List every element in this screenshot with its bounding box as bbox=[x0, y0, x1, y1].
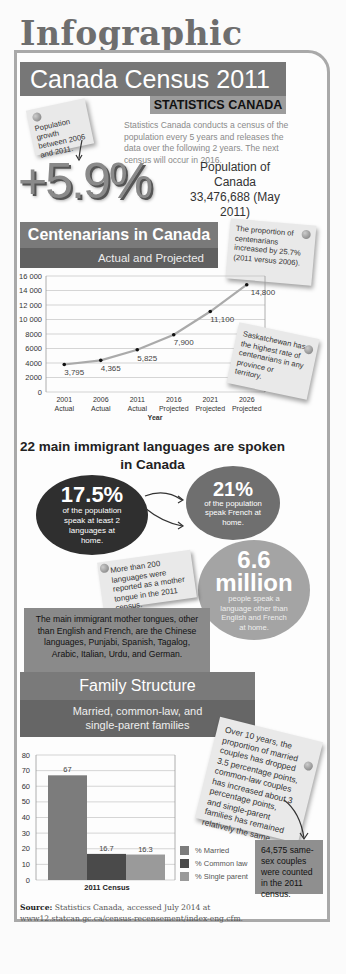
source-label: Source: bbox=[20, 903, 52, 912]
same-sex-couples-box: 64,575 same-sex couples were counted in … bbox=[255, 840, 323, 894]
bilingual-text: of the population speak at least 2 langu… bbox=[60, 506, 124, 546]
circle-other-language: 6.6 million people speak a language othe… bbox=[198, 540, 310, 640]
svg-text:20: 20 bbox=[22, 844, 30, 853]
svg-text:2011: 2011 bbox=[130, 396, 145, 403]
other-language-value-1: 6.6 bbox=[237, 548, 270, 571]
growth-value: +5.9% bbox=[18, 152, 151, 210]
pin-icon bbox=[303, 761, 314, 772]
svg-text:0: 0 bbox=[38, 388, 42, 397]
svg-text:2016: 2016 bbox=[166, 396, 182, 403]
svg-text:2021: 2021 bbox=[202, 396, 218, 403]
legend-swatch bbox=[180, 859, 189, 868]
svg-text:12 000: 12 000 bbox=[19, 301, 42, 310]
svg-text:Projected: Projected bbox=[159, 405, 189, 413]
svg-text:5,825: 5,825 bbox=[137, 354, 158, 363]
svg-text:11,100: 11,100 bbox=[210, 315, 234, 324]
centenarians-title: Centenarians in Canada bbox=[20, 222, 218, 248]
svg-text:3,795: 3,795 bbox=[64, 368, 85, 377]
svg-text:4,365: 4,365 bbox=[101, 364, 122, 373]
source-citation: Source: Statistics Canada, accessed July… bbox=[20, 902, 315, 924]
legend-label: % Common law bbox=[195, 859, 248, 868]
legend-married: % Married bbox=[180, 846, 248, 855]
svg-text:Projected: Projected bbox=[232, 405, 262, 413]
svg-text:40: 40 bbox=[22, 813, 30, 822]
centenarians-subtitle: Actual and Projected bbox=[20, 248, 218, 268]
svg-text:2006: 2006 bbox=[93, 396, 109, 403]
legend-label: % Married bbox=[195, 846, 229, 855]
bar-chart-grid: 010203040506070806716.716.32011 Census bbox=[22, 751, 175, 891]
svg-text:10: 10 bbox=[22, 860, 30, 869]
svg-text:4000: 4000 bbox=[25, 359, 42, 368]
svg-text:0: 0 bbox=[26, 876, 30, 885]
legend-swatch bbox=[180, 846, 189, 855]
svg-text:14,800: 14,800 bbox=[251, 288, 276, 297]
svg-text:2011 Census: 2011 Census bbox=[84, 883, 129, 890]
family-legend: % Married % Common law % Single parent bbox=[180, 846, 248, 885]
sask-note-text: Saskatchewan has the highest rate of cen… bbox=[234, 329, 308, 389]
svg-text:14 000: 14 000 bbox=[19, 286, 42, 295]
census-subtitle: STATISTICS CANADA bbox=[150, 96, 286, 114]
svg-text:Year: Year bbox=[148, 414, 163, 420]
svg-text:80: 80 bbox=[22, 751, 30, 760]
legend-swatch bbox=[180, 872, 189, 881]
svg-text:2000: 2000 bbox=[25, 373, 42, 382]
source-text: Statistics Canada, accessed July 2014 at… bbox=[20, 903, 243, 923]
legend-label: % Single parent bbox=[195, 872, 248, 881]
svg-text:16.3: 16.3 bbox=[138, 845, 153, 854]
french-text: of the population speak French at home. bbox=[202, 499, 264, 528]
svg-text:16.7: 16.7 bbox=[99, 844, 114, 853]
other-language-text: people speak a language other than Engli… bbox=[220, 594, 288, 632]
svg-text:2001: 2001 bbox=[56, 396, 72, 403]
languages-title-line1: 22 main immigrant languages are spoken bbox=[20, 438, 285, 456]
svg-text:Actual: Actual bbox=[128, 405, 148, 412]
svg-text:30: 30 bbox=[22, 829, 30, 838]
increase-note-text: The proportion of centenarians increased… bbox=[233, 224, 304, 268]
arrow-icon bbox=[280, 798, 320, 842]
svg-text:8000: 8000 bbox=[25, 330, 42, 339]
circle-french: 21% of the population speak French at ho… bbox=[186, 466, 280, 540]
svg-text:2026: 2026 bbox=[239, 396, 255, 403]
census-title: Canada Census 2011 bbox=[20, 62, 286, 96]
svg-text:7,900: 7,900 bbox=[174, 338, 195, 347]
family-title: Family Structure bbox=[20, 672, 255, 700]
pin-icon bbox=[32, 112, 43, 123]
population-block: Population of Canada 33,476,688 (May 201… bbox=[180, 160, 290, 220]
svg-text:50: 50 bbox=[22, 797, 30, 806]
circle-bilingual: 17.5% of the population speak at least 2… bbox=[36, 475, 148, 555]
legend-single-parent: % Single parent bbox=[180, 872, 248, 881]
page-title: Infographic bbox=[20, 14, 243, 53]
population-value: 33,476,688 (May 2011) bbox=[180, 190, 290, 220]
svg-text:Projected: Projected bbox=[195, 405, 225, 413]
svg-text:Actual: Actual bbox=[91, 405, 111, 412]
svg-text:70: 70 bbox=[22, 766, 30, 775]
legend-common-law: % Common law bbox=[180, 859, 248, 868]
svg-text:16 000: 16 000 bbox=[19, 272, 42, 281]
other-language-value-2: million bbox=[215, 571, 292, 594]
svg-text:Actual: Actual bbox=[55, 405, 75, 412]
population-label: Population of Canada bbox=[180, 160, 290, 190]
svg-text:67: 67 bbox=[63, 765, 71, 774]
arrows-icon bbox=[140, 488, 190, 538]
pin-icon bbox=[301, 230, 311, 240]
svg-text:6000: 6000 bbox=[25, 344, 42, 353]
french-value: 21% bbox=[213, 479, 253, 499]
bilingual-value: 17.5% bbox=[61, 484, 123, 506]
svg-text:60: 60 bbox=[22, 782, 30, 791]
mother-tongues-box: The main immigrant mother tongues, other… bbox=[24, 608, 210, 672]
svg-text:10 000: 10 000 bbox=[19, 315, 42, 324]
